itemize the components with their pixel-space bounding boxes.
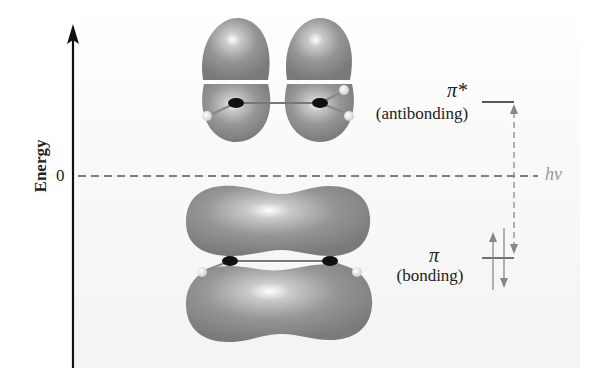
antibonding-label: π* bbox=[402, 80, 512, 100]
spin-down-arrow-icon bbox=[500, 278, 508, 288]
carbon-atom bbox=[322, 256, 338, 266]
carbon-atom bbox=[222, 256, 238, 266]
arrow-down-icon bbox=[510, 244, 518, 254]
hydrogen-atom bbox=[352, 267, 362, 277]
carbon-atom bbox=[312, 98, 328, 108]
transition-arrow bbox=[510, 104, 518, 254]
bonding-label: π bbox=[404, 245, 464, 265]
transition-label: hν bbox=[545, 164, 562, 185]
hydrogen-atom bbox=[202, 111, 212, 121]
arrow-up-icon bbox=[510, 104, 518, 114]
electron-spins bbox=[489, 228, 508, 290]
antibonding-symbol: π* bbox=[402, 80, 512, 100]
bonding-name: (bonding) bbox=[380, 266, 480, 286]
bonding-orbital bbox=[186, 186, 372, 342]
antibonding-name: (antibonding) bbox=[362, 104, 482, 124]
energy-axis-label: Energy bbox=[31, 131, 51, 201]
bonding-symbol: π bbox=[404, 245, 464, 265]
hydrogen-atom bbox=[197, 267, 207, 277]
carbon-atom bbox=[228, 98, 244, 108]
spin-up-arrow-icon bbox=[489, 232, 497, 242]
energy-axis bbox=[67, 24, 79, 368]
antibonding-orbital bbox=[202, 18, 354, 142]
energy-diagram bbox=[0, 0, 601, 384]
zero-tick-label: 0 bbox=[56, 166, 65, 186]
hydrogen-atom bbox=[339, 85, 349, 95]
hydrogen-atom bbox=[344, 111, 354, 121]
